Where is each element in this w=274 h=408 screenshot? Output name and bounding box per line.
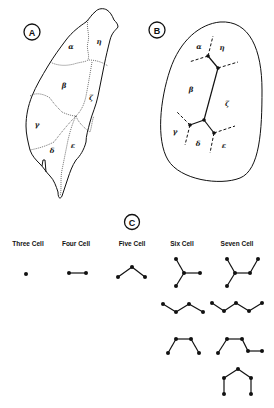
figure: A α η β ζ γ δ ε B <box>0 0 274 408</box>
graph-edge <box>176 259 184 273</box>
graph-node <box>201 310 205 314</box>
graph-edge <box>218 339 227 353</box>
region-label-epsilon: ε <box>71 141 76 150</box>
graph-node <box>130 265 134 269</box>
graph-edge <box>191 339 199 353</box>
graph-node <box>247 309 251 313</box>
graph-edge <box>118 267 132 277</box>
graph-edge <box>227 273 235 286</box>
seven-cell-config-4 <box>222 367 253 396</box>
three-cell-config <box>24 272 28 276</box>
graph-edge <box>132 267 145 277</box>
panel-b: B α η β ζ γ δ ε <box>149 22 262 182</box>
junction-node <box>202 118 206 122</box>
graph-node <box>225 337 229 341</box>
panel-a-label: A <box>29 28 36 38</box>
graph-node <box>198 271 202 275</box>
six-cell-config-2 <box>161 302 205 314</box>
graph-node <box>187 302 191 306</box>
coast-notch <box>42 160 46 172</box>
graph-node <box>84 271 88 275</box>
graph-edge <box>224 369 238 378</box>
graph-node <box>174 337 178 341</box>
graph-node <box>240 337 244 341</box>
schematic-label-alpha: α <box>196 42 202 51</box>
panel-c-label: C <box>129 218 136 228</box>
border-delta-epsilon <box>60 116 76 196</box>
seven-cell-config-2 <box>210 301 264 313</box>
island-outline <box>26 9 118 198</box>
border-beta-gamma <box>30 94 76 116</box>
title-seven-cell: Seven Cell <box>221 240 254 247</box>
link-delta-epsilon <box>204 120 214 133</box>
junction-node <box>212 131 216 135</box>
graph-node <box>222 309 226 313</box>
graph-edge <box>163 304 176 312</box>
graph-edge <box>227 259 235 273</box>
seven-cell-config-1 <box>225 257 260 288</box>
graph-node <box>260 349 264 353</box>
link-gamma-delta <box>190 120 204 125</box>
link-beta-zeta <box>204 68 218 120</box>
dash-delta-epsilon <box>210 133 214 153</box>
graph-node <box>222 376 226 380</box>
region-label-eta: η <box>96 37 101 46</box>
graph-node <box>249 392 253 396</box>
link-alpha-eta-junction <box>208 56 218 68</box>
graph-node <box>189 337 193 341</box>
graph-node <box>249 376 253 380</box>
dash-zeta-epsilon <box>214 126 235 133</box>
graph-node <box>216 351 220 355</box>
schematic-label-delta: δ <box>195 139 201 148</box>
seven-cell-config-3 <box>216 337 264 355</box>
border-alpha-beta <box>50 60 108 66</box>
graph-edge <box>168 339 176 353</box>
schematic-label-beta: β <box>188 85 194 94</box>
graph-node <box>233 271 237 275</box>
graph-edge <box>250 259 258 273</box>
graph-edge <box>176 304 189 312</box>
graph-edge <box>224 303 236 311</box>
panel-b-badge: B <box>149 22 165 38</box>
border-beta-zeta <box>76 62 92 116</box>
region-label-beta: β <box>61 81 67 90</box>
graph-node <box>24 272 28 276</box>
schematic-label-eta: η <box>219 43 224 52</box>
title-six-cell: Six Cell <box>170 240 194 247</box>
graph-node <box>256 257 260 261</box>
graph-node <box>116 275 120 279</box>
region-label-delta: δ <box>49 146 55 155</box>
junction-node <box>216 66 220 70</box>
graph-node <box>197 351 201 355</box>
graph-node <box>210 301 214 305</box>
five-cell-config <box>116 265 147 279</box>
schematic-label-gamma: γ <box>173 127 178 136</box>
schematic-label-zeta: ζ <box>225 99 230 108</box>
schematic-boundary <box>161 22 262 182</box>
graph-node <box>161 302 165 306</box>
junction-node <box>206 54 210 58</box>
graph-edge <box>176 273 184 286</box>
graph-node <box>234 301 238 305</box>
region-label-zeta: ζ <box>89 93 94 102</box>
graph-node <box>143 275 147 279</box>
graph-edge <box>236 303 249 311</box>
panel-a: A α η β ζ γ δ ε <box>24 9 118 198</box>
panel-b-label: B <box>154 26 161 36</box>
graph-edge <box>249 303 262 311</box>
six-cell-config-3 <box>166 337 201 355</box>
dash-eta-zeta <box>218 62 238 68</box>
graph-node <box>174 284 178 288</box>
graph-node <box>225 257 229 261</box>
title-four-cell: Four Cell <box>62 240 90 247</box>
graph-node <box>67 271 71 275</box>
region-label-alpha: α <box>68 42 74 51</box>
graph-node <box>222 392 226 396</box>
graph-node <box>174 257 178 261</box>
title-three-cell: Three Cell <box>12 240 44 247</box>
graph-node <box>246 349 250 353</box>
panel-c: C Three Cell Four Cell Five Cell Six Cel… <box>12 215 264 397</box>
graph-node <box>260 301 264 305</box>
panel-c-badge: C <box>125 215 140 230</box>
graph-node <box>166 351 170 355</box>
